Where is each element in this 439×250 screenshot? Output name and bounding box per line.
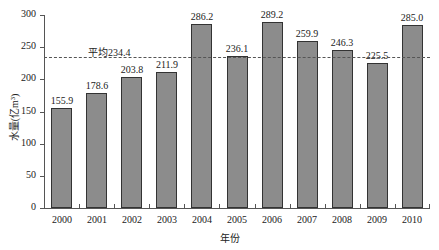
x-tick-label: 2004: [185, 214, 219, 225]
y-tick-label: 50: [8, 169, 36, 180]
x-tick-label: 2002: [115, 214, 149, 225]
bar-value-label: 286.2: [182, 11, 222, 22]
y-tick-label: 250: [8, 40, 36, 51]
bar-2010: [402, 25, 423, 208]
x-axis-label: 年份: [220, 230, 240, 245]
x-tick-label: 2005: [220, 214, 254, 225]
bar-value-label: 246.3: [322, 37, 362, 48]
x-tick-label: 2003: [150, 214, 184, 225]
y-tick-label: 200: [8, 72, 36, 83]
bar-2002: [121, 77, 142, 208]
bar-value-label: 225.5: [357, 50, 397, 61]
y-tick: [40, 112, 44, 113]
y-tick-label: 150: [8, 105, 36, 116]
bar-value-label: 155.9: [42, 95, 82, 106]
bar-2003: [156, 72, 177, 208]
y-tick: [40, 208, 44, 209]
y-tick: [40, 144, 44, 145]
bar-value-label: 259.9: [287, 28, 327, 39]
x-tick: [184, 204, 185, 208]
y-tick-label: 100: [8, 137, 36, 148]
bar-chart: 水量(亿m³) 050100150200250300 155.92000178.…: [0, 0, 439, 250]
x-tick-label: 2010: [395, 214, 429, 225]
x-tick-label: 2008: [325, 214, 359, 225]
y-tick: [40, 47, 44, 48]
bar-2000: [51, 108, 72, 208]
bar-value-label: 285.0: [392, 12, 432, 23]
y-tick: [40, 176, 44, 177]
x-tick: [290, 204, 291, 208]
bar-value-label: 203.8: [112, 64, 152, 75]
bar-2007: [297, 41, 318, 208]
y-axis-line: [44, 15, 45, 208]
bar-2009: [367, 63, 388, 208]
x-axis-line: [44, 208, 430, 209]
x-tick-label: 2001: [80, 214, 114, 225]
x-tick: [325, 204, 326, 208]
bar-value-label: 211.9: [147, 59, 187, 70]
x-tick: [255, 204, 256, 208]
bar-2001: [86, 93, 107, 208]
bar-value-label: 236.1: [217, 43, 257, 54]
x-tick: [219, 204, 220, 208]
y-tick-label: 300: [8, 8, 36, 19]
x-tick: [429, 204, 430, 208]
y-tick: [40, 79, 44, 80]
x-tick: [79, 204, 80, 208]
x-tick: [149, 204, 150, 208]
bar-2008: [332, 50, 353, 208]
bar-2005: [227, 56, 248, 208]
bar-2004: [191, 24, 212, 208]
mean-label: 平均234.4: [88, 44, 131, 59]
y-tick-label: 0: [8, 201, 36, 212]
bar-value-label: 289.2: [252, 9, 292, 20]
y-tick: [40, 15, 44, 16]
x-tick-label: 2009: [360, 214, 394, 225]
x-tick-label: 2007: [290, 214, 324, 225]
x-tick: [360, 204, 361, 208]
bar-value-label: 178.6: [77, 80, 117, 91]
x-tick-label: 2000: [45, 214, 79, 225]
x-tick: [395, 204, 396, 208]
x-tick: [114, 204, 115, 208]
x-tick-label: 2006: [255, 214, 289, 225]
bar-2006: [262, 22, 283, 208]
